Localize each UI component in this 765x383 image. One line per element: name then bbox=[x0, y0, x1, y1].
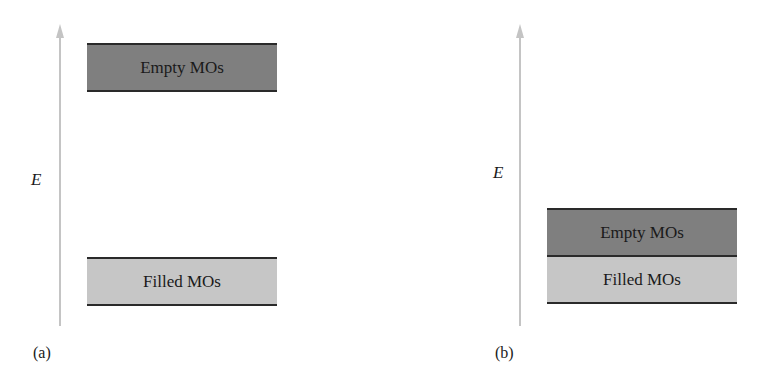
energy-axis-label: E bbox=[493, 163, 503, 183]
filled-mo-label: Filled MOs bbox=[603, 270, 681, 290]
empty-mo-band: Empty MOs bbox=[547, 208, 737, 257]
energy-axis-label: E bbox=[31, 170, 41, 190]
filled-mo-label: Filled MOs bbox=[143, 272, 221, 292]
panel-label: (b) bbox=[495, 344, 514, 362]
filled-mo-band: Filled MOs bbox=[87, 257, 277, 306]
filled-mo-band: Filled MOs bbox=[547, 257, 737, 304]
empty-mo-label: Empty MOs bbox=[600, 223, 684, 243]
empty-mo-label: Empty MOs bbox=[140, 58, 224, 78]
panel-label: (a) bbox=[33, 344, 51, 362]
energy-axis bbox=[59, 36, 61, 326]
energy-axis bbox=[519, 36, 521, 326]
empty-mo-band: Empty MOs bbox=[87, 43, 277, 92]
